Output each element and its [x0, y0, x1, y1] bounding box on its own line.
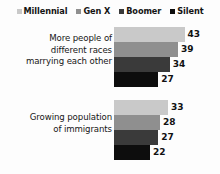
bar-boomer[interactable] — [114, 57, 170, 72]
bar-value-label: 22 — [150, 145, 166, 160]
bar-stack: 33282722 — [114, 100, 220, 160]
legend-swatch-icon — [119, 9, 124, 14]
legend-item-gen-x[interactable]: Gen X — [76, 7, 110, 16]
legend-item-silent[interactable]: Silent — [170, 7, 203, 16]
bar-value-label: 33 — [168, 100, 184, 115]
category-label-line: marrying each other — [8, 56, 112, 68]
bar-stack: 43393427 — [114, 27, 220, 87]
bar-value-label: 39 — [178, 42, 194, 57]
bar-value-label: 34 — [170, 57, 186, 72]
category-label: More people ofdifferent racesmarrying ea… — [8, 33, 112, 68]
bar-gen-x[interactable] — [114, 115, 160, 130]
legend-item-millennial[interactable]: Millennial — [17, 7, 68, 16]
legend-label: Silent — [177, 7, 203, 16]
chart-legend: MillennialGen XBoomerSilent — [0, 7, 220, 16]
bar-row: 22 — [114, 145, 220, 160]
bar-row: 39 — [114, 42, 220, 57]
legend-label: Millennial — [24, 7, 68, 16]
bar-row: 43 — [114, 27, 220, 42]
bar-row: 34 — [114, 57, 220, 72]
grouped-bar-chart: MillennialGen XBoomerSilent More people … — [0, 0, 220, 174]
bar-row: 27 — [114, 130, 220, 145]
legend-swatch-icon — [76, 9, 81, 14]
legend-item-boomer[interactable]: Boomer — [119, 7, 161, 16]
category-label-line: of immigrants — [8, 124, 112, 136]
bar-boomer[interactable] — [114, 130, 158, 145]
category-label-line: Growing population — [8, 112, 112, 124]
bar-value-label: 27 — [158, 130, 174, 145]
legend-label: Gen X — [83, 7, 110, 16]
category-label-line: More people of — [8, 33, 112, 45]
bar-gen-x[interactable] — [114, 42, 178, 57]
bar-value-label: 43 — [185, 27, 201, 42]
bar-row: 27 — [114, 72, 220, 87]
bar-value-label: 27 — [158, 72, 174, 87]
bar-silent[interactable] — [114, 72, 158, 87]
bar-millennial[interactable] — [114, 100, 168, 115]
legend-label: Boomer — [126, 7, 161, 16]
bar-row: 28 — [114, 115, 220, 130]
category-label: Growing populationof immigrants — [8, 112, 112, 135]
category-label-line: different races — [8, 45, 112, 57]
bar-silent[interactable] — [114, 145, 150, 160]
legend-swatch-icon — [170, 9, 175, 14]
plot-area: More people ofdifferent racesmarrying ea… — [0, 24, 220, 174]
bar-row: 33 — [114, 100, 220, 115]
bar-value-label: 28 — [160, 115, 176, 130]
legend-swatch-icon — [17, 9, 22, 14]
bar-millennial[interactable] — [114, 27, 185, 42]
